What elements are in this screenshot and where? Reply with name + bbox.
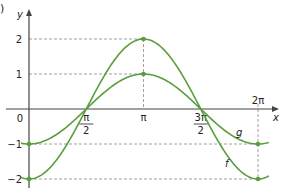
data-point-f — [141, 37, 146, 42]
data-point-g — [27, 142, 32, 147]
x-tick-label: 2π — [252, 95, 264, 106]
y-axis-arrow-icon — [26, 9, 32, 16]
x-tick-label: 0 — [17, 113, 23, 124]
data-point-g — [256, 142, 261, 147]
x-tick-label: π — [140, 112, 146, 123]
y-tick-label: 1 — [16, 69, 22, 80]
y-tick-label: −1 — [7, 139, 22, 150]
x-axis-label: x — [272, 112, 279, 123]
y-axis-label: y — [16, 9, 24, 20]
x-tick-label-den: 2 — [83, 125, 89, 136]
data-point-g — [141, 72, 146, 77]
x-tick-label-den: 2 — [198, 125, 204, 136]
y-tick-label: 2 — [16, 34, 22, 45]
series-label-g: g — [236, 127, 242, 138]
function-graph: xy21−1−20π2π3π22πgf — [0, 0, 281, 194]
data-point-f — [256, 177, 261, 182]
y-tick-label: −2 — [7, 174, 22, 185]
data-point-f — [27, 177, 32, 182]
